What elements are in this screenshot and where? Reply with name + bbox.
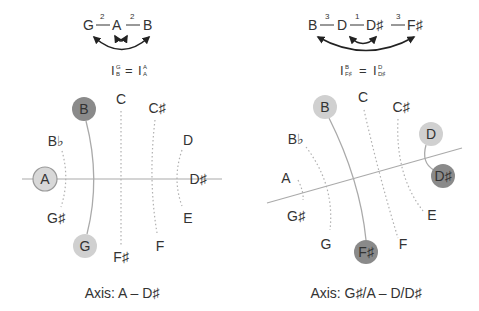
note-bb: B♭	[48, 133, 64, 149]
seq-note-b: B	[143, 17, 152, 33]
note-c: C	[358, 89, 368, 105]
eq-rhs-sub: A	[143, 71, 147, 77]
seq-note-a: A	[112, 17, 122, 33]
left-equation: I G B = I A A	[111, 63, 147, 78]
note-g: G	[321, 236, 332, 252]
note-ds: D♯	[189, 171, 207, 187]
inversion-diagrams: G 2 A 2 B I G B = I A A	[0, 0, 479, 311]
note-label: G	[80, 238, 91, 254]
eq-lhs-sub: B	[116, 71, 120, 77]
seq-interval: 1	[355, 12, 360, 21]
note-gs: G♯	[47, 210, 66, 226]
note-a: A	[281, 170, 291, 186]
eq-sign: =	[125, 63, 133, 78]
note-e: E	[427, 207, 436, 223]
note-label: D	[426, 126, 436, 142]
seq-note-d: D	[337, 17, 347, 33]
note-fs-circle: F♯	[354, 240, 378, 264]
pair-arc-d-e	[177, 150, 182, 206]
pair-arc-b-fs	[329, 118, 366, 240]
right-sequence: B 3 D 1 D♯ 3 F♯	[308, 12, 424, 51]
note-gs: G♯	[287, 208, 306, 224]
note-label: F♯	[358, 244, 375, 260]
note-cs: C♯	[392, 99, 410, 115]
left-caption: Axis: A – D♯	[85, 285, 161, 301]
note-label: B	[320, 99, 329, 115]
pair-arc-cs-f	[152, 120, 157, 233]
note-label: D♯	[434, 168, 452, 184]
eq-lhs: I	[340, 63, 344, 78]
note-b-circle: B	[72, 97, 96, 121]
eq-lhs-sup: G	[116, 64, 121, 70]
left-sequence: G 2 A 2 B	[83, 12, 152, 50]
seq-interval: 2	[130, 12, 135, 21]
seq-interval: 3	[325, 12, 330, 21]
note-label: B	[79, 101, 88, 117]
note-g-circle: G	[73, 234, 97, 258]
note-label: A	[40, 171, 50, 187]
note-e: E	[183, 210, 192, 226]
seq-note-ds: D♯	[366, 17, 384, 33]
eq-rhs: I	[373, 63, 377, 78]
right-caption: Axis: G♯/A – D/D♯	[310, 285, 422, 301]
note-ds-circle: D♯	[431, 164, 455, 188]
left-panel: G 2 A 2 B I G B = I A A	[22, 12, 222, 301]
outer-swap-arrow-icon	[94, 37, 149, 50]
right-equation: I B F♯ = I D D♯	[340, 63, 385, 78]
eq-sign: =	[359, 63, 367, 78]
eq-rhs: I	[138, 63, 142, 78]
seq-note-b: B	[308, 17, 317, 33]
right-panel: B 3 D 1 D♯ 3 F♯ I B F♯ = I D D♯	[267, 12, 462, 301]
note-b-circle: B	[313, 95, 337, 119]
eq-rhs-sup: A	[143, 64, 147, 70]
note-d: D	[183, 132, 193, 148]
note-d-circle: D	[419, 122, 443, 146]
note-f: F	[156, 238, 165, 254]
eq-lhs-sub: F♯	[345, 71, 352, 77]
pair-arc-a-gs	[298, 180, 303, 200]
seq-interval: 2	[100, 12, 105, 21]
note-f: F	[399, 236, 408, 252]
note-c: C	[116, 91, 126, 107]
eq-lhs-sup: B	[345, 64, 349, 70]
pair-arc-b-g	[86, 121, 94, 234]
inner-swap-arrow-icon	[115, 36, 127, 41]
eq-rhs-sup: D	[378, 64, 383, 70]
eq-lhs: I	[111, 63, 115, 78]
seq-note-fs: F♯	[407, 17, 424, 33]
note-a-circle: A	[33, 167, 57, 191]
seq-note-g: G	[83, 17, 94, 33]
seq-interval: 3	[396, 12, 401, 21]
note-cs: C♯	[148, 100, 166, 116]
eq-rhs-sub: D♯	[378, 71, 385, 77]
inner-swap-arrow-icon	[350, 37, 376, 44]
note-bb: B♭	[288, 131, 304, 147]
note-fs: F♯	[113, 249, 130, 265]
